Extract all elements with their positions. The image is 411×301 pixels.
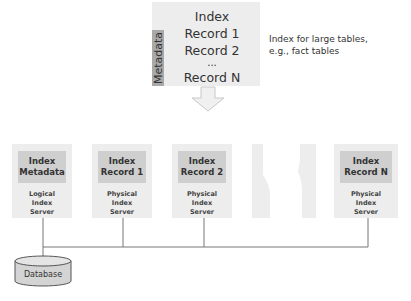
server-title-line: Index: [189, 156, 216, 167]
server-caption-line: Server: [92, 208, 152, 217]
logical-index-server: Index Metadata Logical Index Server: [12, 144, 72, 218]
server-title: Index Record N: [340, 151, 392, 183]
server-title-line: Record N: [344, 167, 388, 178]
physical-index-server: Index Record N Physical Index Server: [334, 144, 398, 218]
database-label: Database: [24, 270, 62, 279]
server-caption-line: Logical: [12, 190, 72, 199]
placeholder-server-right: [298, 144, 316, 218]
server-caption: Physical Index Server: [172, 190, 232, 217]
server-title-line: Index: [353, 156, 380, 167]
server-caption-line: Index: [334, 199, 398, 208]
server-title-line: Metadata: [19, 167, 65, 178]
server-caption-line: Index: [92, 199, 152, 208]
server-title-line: Record 1: [101, 167, 143, 178]
server-caption-line: Index: [12, 199, 72, 208]
physical-index-server: Index Record 1 Physical Index Server: [92, 144, 152, 218]
server-title: Index Metadata: [18, 151, 66, 183]
server-caption-line: Server: [172, 208, 232, 217]
placeholder-server-left: [252, 144, 270, 218]
server-caption-line: Physical: [334, 190, 398, 199]
server-title-line: Index: [29, 156, 56, 167]
physical-index-server: Index Record 2 Physical Index Server: [172, 144, 232, 218]
server-title: Index Record 2: [178, 151, 226, 183]
server-title: Index Record 1: [98, 151, 146, 183]
server-title-line: Index: [109, 156, 136, 167]
server-caption-line: Server: [334, 208, 398, 217]
server-caption-line: Physical: [172, 190, 232, 199]
server-caption-line: Index: [172, 199, 232, 208]
server-caption: Physical Index Server: [92, 190, 152, 217]
server-caption-line: Physical: [92, 190, 152, 199]
database-icon: Database: [14, 255, 72, 287]
server-caption: Logical Index Server: [12, 190, 72, 217]
server-caption-line: Server: [12, 208, 72, 217]
server-caption: Physical Index Server: [334, 190, 398, 217]
server-title-line: Record 2: [181, 167, 223, 178]
